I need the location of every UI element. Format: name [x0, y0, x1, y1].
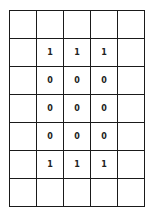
grid-cell: 0	[64, 95, 91, 123]
grid-cell	[118, 95, 145, 123]
grid-cell	[118, 11, 145, 39]
grid-cell: 0	[37, 67, 64, 95]
grid-cell: 0	[64, 67, 91, 95]
grid-cell: 1	[64, 151, 91, 179]
grid-cell	[37, 11, 64, 39]
grid-cell: 0	[37, 95, 64, 123]
grid-cell	[64, 179, 91, 207]
grid-cell: 1	[37, 39, 64, 67]
grid-cell: 0	[64, 123, 91, 151]
grid-cell	[118, 151, 145, 179]
grid-cell	[10, 11, 37, 39]
grid-cell: 1	[91, 39, 118, 67]
grid-cell	[118, 123, 145, 151]
grid-cell: 1	[37, 151, 64, 179]
grid-cell: 0	[91, 95, 118, 123]
grid-cell: 0	[37, 123, 64, 151]
grid-cell	[118, 67, 145, 95]
grid-cell	[10, 123, 37, 151]
binary-grid: 1 1 1 0 0 0 0 0 0 0 0 0 1 1 1	[9, 10, 145, 207]
grid-cell: 0	[91, 67, 118, 95]
grid-cell	[37, 179, 64, 207]
grid-cell	[91, 11, 118, 39]
grid-cell: 1	[64, 39, 91, 67]
grid-cell	[10, 95, 37, 123]
grid-cell	[118, 179, 145, 207]
grid-cell	[10, 39, 37, 67]
grid-cell	[64, 11, 91, 39]
grid-cell	[10, 67, 37, 95]
grid-cell: 0	[91, 123, 118, 151]
grid-cell	[10, 179, 37, 207]
grid-cell	[10, 151, 37, 179]
grid-cell	[118, 39, 145, 67]
grid-cell: 1	[91, 151, 118, 179]
grid-cell	[91, 179, 118, 207]
